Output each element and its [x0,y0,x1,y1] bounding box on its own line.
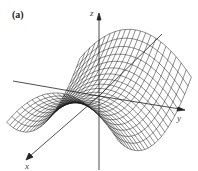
y-axis-arrow-icon [177,107,185,111]
y-axis-label: y [177,113,181,123]
front-axes [26,13,185,170]
saddle-surface-plot [0,0,198,171]
x-axis-label: x [25,161,29,171]
panel-label: (a) [12,9,24,20]
y-axis [99,96,180,109]
z-axis-label: z [90,8,94,18]
z-axis-arrow-icon [97,13,101,20]
